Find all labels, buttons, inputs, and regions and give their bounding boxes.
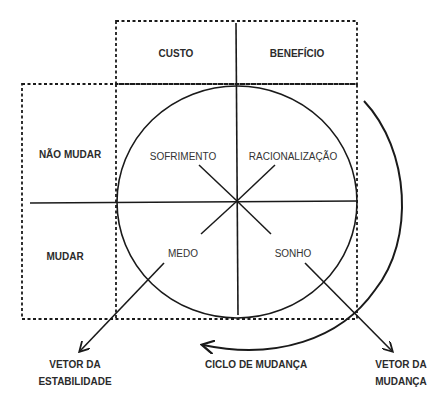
spoke-top-left (199, 165, 237, 201)
label-custo: CUSTO (146, 45, 206, 62)
spoke-bottom-left (201, 201, 237, 234)
label-vetor-estabilidade-line2: ESTABILIDADE (35, 373, 115, 390)
change-cycle-diagram (0, 0, 441, 404)
stability-vector-arrow (80, 263, 164, 351)
label-beneficio: BENEFÍCIO (262, 45, 332, 62)
label-medo: MEDO (163, 245, 203, 262)
change-cycle-arc (203, 101, 402, 350)
label-sofrimento: SOFRIMENTO (143, 148, 223, 165)
label-vetor-mudanca-line1: VETOR DA (371, 356, 431, 373)
label-mudar: MUDAR (30, 248, 100, 265)
horizontal-axis (30, 201, 358, 203)
spoke-top-right (237, 165, 275, 201)
spoke-bottom-right (237, 201, 271, 234)
label-nao-mudar: NÃO MUDAR (30, 146, 110, 163)
label-sonho: SONHO (268, 245, 318, 262)
label-racionalizacao: RACIONALIZAÇÃO (243, 148, 343, 165)
label-ciclo-de-mudanca: CICLO DE MUDANÇA (205, 356, 305, 373)
label-vetor-estabilidade-line1: VETOR DA (40, 356, 110, 373)
vertical-axis (236, 23, 238, 315)
label-vetor-mudanca-line2: MUDANÇA (371, 373, 431, 390)
change-vector-arrow (305, 263, 392, 351)
